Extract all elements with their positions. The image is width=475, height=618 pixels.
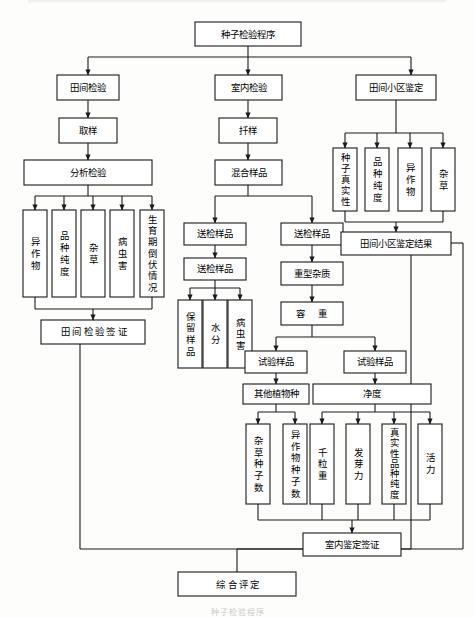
node-submit-sample-3-label: 送检样品 xyxy=(197,263,233,274)
node-plot-item-0-label: 种子真实性 xyxy=(341,152,350,207)
node-mixed-sample-label: 混合样品 xyxy=(231,167,267,178)
node-sampling-label: 取样 xyxy=(79,125,97,136)
node-left-item-1-label: 品种纯度 xyxy=(60,230,70,276)
node-plot-item-3-label: 杂草 xyxy=(439,168,448,191)
node-field-certificate-label: 田间检验签证 xyxy=(61,326,129,337)
node-heavy-impurity-label: 重型杂质 xyxy=(294,268,330,279)
node-left-item-3-label: 病虫害 xyxy=(118,236,127,271)
node-thousand-grain-weight-label: 千粒重 xyxy=(318,447,327,482)
node-indoor-certificate-label: 室内鉴定签证 xyxy=(325,539,379,550)
node-germination-label: 发芽力 xyxy=(354,447,364,482)
node-test-sample-left-label: 试验样品 xyxy=(258,356,294,367)
node-retained-sample-label: 保留样品 xyxy=(186,311,196,357)
node-analysis-inspection-label: 分析检验 xyxy=(70,167,107,178)
figure-caption: 种子检验程序 xyxy=(0,606,475,617)
node-vigor-label: 活力 xyxy=(426,452,435,475)
node-authenticity-purity-label: 真实性品种纯度 xyxy=(390,427,400,500)
node-bulk-weight-label: 容 重 xyxy=(296,308,332,319)
node-submit-sample-2-label: 送检样品 xyxy=(294,228,330,239)
node-left-item-2-label: 杂草 xyxy=(89,242,98,265)
node-submit-sample-1-label: 送检样品 xyxy=(197,228,233,239)
node-other-crop-seed-count-label: 异作物种子数 xyxy=(291,429,301,499)
node-left-item-4-label: 生育期倒伏情况 xyxy=(148,214,158,293)
node-test-sample-right-label: 试验样品 xyxy=(357,356,393,367)
flowchart-canvas: 种子检验程序 田间检验 室内检验 田间小区鉴定 取样 分析检验 异作物 品种纯度… xyxy=(0,0,475,618)
node-field-plot-identification-label: 田间小区鉴定 xyxy=(369,82,423,93)
node-plot-result-label: 田间小区鉴定结果 xyxy=(360,238,433,249)
node-plot-item-2-label: 异作物 xyxy=(406,162,415,197)
node-moisture-label: 水分 xyxy=(211,322,221,345)
node-pest-disease-label: 病虫害 xyxy=(236,317,245,352)
node-overall-assessment-label: 综合评定 xyxy=(216,579,262,590)
node-weed-seed-count-label: 杂草种子数 xyxy=(254,435,264,493)
node-stir-sample-label: 扦样 xyxy=(239,125,257,136)
node-plot-item-1-label: 品种纯度 xyxy=(373,156,383,202)
node-indoor-inspection-label: 室内检验 xyxy=(231,82,268,93)
node-purity-label: 净度 xyxy=(363,388,381,399)
node-left-item-0-label: 异作物 xyxy=(31,236,40,271)
node-field-inspection-label: 田间检验 xyxy=(70,82,107,93)
node-root-label: 种子检验程序 xyxy=(221,29,275,40)
flowchart-figure: 种子检验程序 田间检验 室内检验 田间小区鉴定 取样 分析检验 异作物 品种纯度… xyxy=(0,0,475,618)
node-other-plant-species-label: 其他植物种 xyxy=(254,388,299,399)
